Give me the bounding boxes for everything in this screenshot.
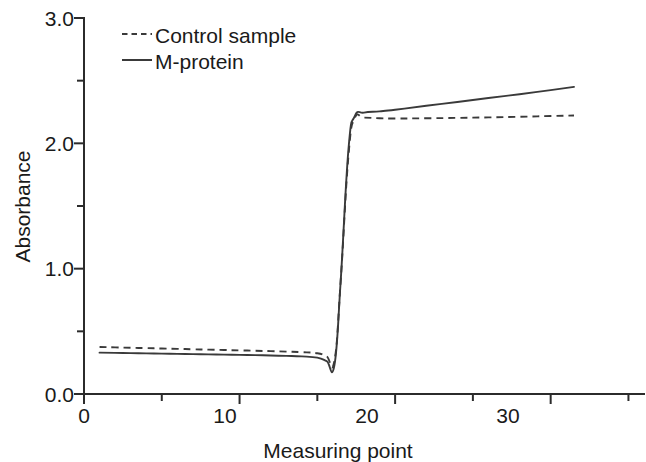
series-line-control-sample bbox=[100, 114, 574, 367]
y-tick-label-3: 3.0 bbox=[16, 8, 74, 29]
legend-label-control-sample: Control sample bbox=[155, 25, 296, 46]
x-axis-title: Measuring point bbox=[84, 440, 592, 461]
x-tick-label-20: 20 bbox=[347, 405, 387, 426]
legend-label-m-protein: M-protein bbox=[155, 51, 244, 72]
y-axis-title: Absorbance bbox=[12, 137, 33, 277]
x-tick-label-30: 30 bbox=[488, 405, 528, 426]
chart-plot-area bbox=[0, 0, 646, 462]
chart-figure: Control sample M-protein 3.0 2.0 1.0 0.0… bbox=[0, 0, 646, 462]
y-tick-label-0: 0.0 bbox=[16, 384, 74, 405]
x-tick-label-0: 0 bbox=[64, 405, 104, 426]
y-axis-ticks bbox=[74, 18, 84, 394]
x-tick-label-10: 10 bbox=[205, 405, 245, 426]
x-axis-ticks bbox=[84, 394, 628, 404]
